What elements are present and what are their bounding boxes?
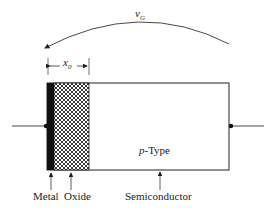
voltage-label: vG: [135, 7, 145, 22]
semiconductor-label: Semiconductor: [125, 190, 192, 202]
oxide-label: Oxide: [64, 190, 91, 202]
oxide-layer: [54, 83, 89, 170]
voltage-arc-arrow: [45, 22, 229, 48]
metal-label: Metal: [33, 190, 59, 202]
thickness-label: x0: [63, 56, 71, 71]
mos-diagram: [0, 0, 275, 211]
region-type-label: p-Type: [139, 144, 170, 156]
